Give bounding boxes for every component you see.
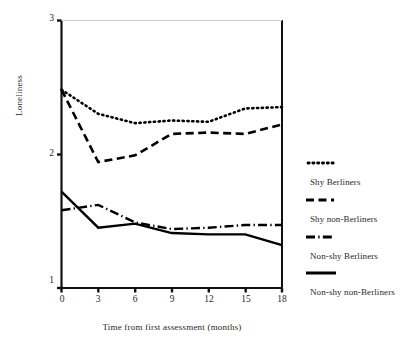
x-axis-title: Time from first assessment (months) bbox=[61, 322, 283, 332]
chart-figure: Loneliness Time from first assessment (m… bbox=[0, 0, 419, 348]
series-line-non-shy-non-berliners bbox=[62, 192, 283, 246]
x-tick-label-9: 9 bbox=[162, 294, 182, 304]
x-tick-label-12: 12 bbox=[199, 294, 219, 304]
legend-label-shy-berliners: Shy Berliners bbox=[310, 177, 361, 187]
y-tick-label-3: 3 bbox=[38, 13, 54, 23]
legend-label-non-shy-non-berliners: Non-shy non-Berliners bbox=[310, 287, 395, 297]
legend-label-non-shy-berliners: Non-shy Berliners bbox=[310, 251, 378, 261]
x-tick-label-3: 3 bbox=[88, 294, 108, 304]
series-line-shy-non-berliners bbox=[62, 90, 283, 162]
series-line-shy-berliners bbox=[62, 90, 283, 124]
y-tick-label-2: 2 bbox=[38, 148, 54, 158]
y-tick-label-1: 1 bbox=[38, 275, 54, 285]
legend-label-shy-non-berliners: Shy non-Berliners bbox=[310, 214, 377, 224]
x-tick-label-6: 6 bbox=[125, 294, 145, 304]
x-tick-label-0: 0 bbox=[52, 294, 72, 304]
x-tick-label-18: 18 bbox=[272, 294, 292, 304]
x-tick-label-15: 15 bbox=[236, 294, 256, 304]
y-axis-title: Loneliness bbox=[14, 0, 24, 116]
